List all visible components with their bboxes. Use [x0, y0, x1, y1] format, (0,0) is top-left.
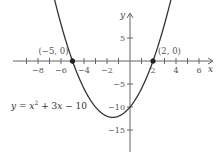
equation-label: y = x2 + 3x − 10: [11, 99, 87, 111]
x-tick-label: −6: [55, 66, 67, 75]
y-tick-label: 5: [120, 34, 125, 43]
y-tick-label: −5: [113, 80, 125, 89]
axes: −8−6−4−2246 5−5−10−15 x y: [13, 10, 213, 152]
x-axis-label: x: [208, 64, 213, 74]
point-label: (−5, 0): [39, 46, 69, 56]
x-tick-label: −4: [78, 66, 90, 75]
x-tick-label: −8: [32, 66, 44, 75]
point-label: (2, 0): [158, 46, 181, 56]
y-tick-label: −10: [108, 103, 125, 112]
y-tick-label: −15: [108, 126, 125, 135]
x-tick-label: 4: [173, 66, 178, 75]
x-tick-label: 6: [196, 66, 201, 75]
intercept-point: [70, 58, 75, 63]
y-axis-label: y: [119, 10, 126, 20]
x-tick-label: −2: [101, 66, 113, 75]
y-ticks: 5−5−10−15: [108, 34, 133, 135]
intercept-point: [150, 58, 155, 63]
parabola-graph: −8−6−4−2246 5−5−10−15 x y (−5, 0)(2, 0): [0, 0, 223, 158]
